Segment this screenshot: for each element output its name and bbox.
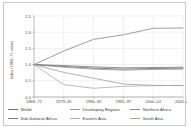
- y-tick-label: 2.5: [25, 14, 31, 19]
- legend-label: World: [21, 105, 32, 114]
- y-tick-label: 0.5: [25, 78, 31, 83]
- legend-color-swatch: [70, 109, 80, 110]
- legend-label: South Asia: [143, 114, 163, 123]
- legend-item[interactable]: Northern Africa: [130, 105, 183, 114]
- plot-area: 0.00.51.01.52.02.5 1969–711979–811990–92…: [4, 3, 187, 103]
- chart-legend: WorldDeveloping RegionsNorthern AfricaSu…: [4, 103, 187, 125]
- y-tick-label: 1.5: [25, 46, 31, 51]
- legend-row: Sub-Saharan AfricaEastern AsiaSouth Asia: [8, 114, 183, 123]
- series-lines: [34, 28, 183, 88]
- legend-color-swatch: [130, 109, 140, 110]
- series-line: [34, 28, 183, 65]
- figure-panel: 0.00.51.01.52.02.5 1969–711979–811990–92…: [3, 2, 186, 126]
- legend-color-swatch: [70, 118, 80, 119]
- legend-item[interactable]: Sub-Saharan Africa: [8, 114, 70, 123]
- legend-label: Developing Regions: [83, 105, 120, 114]
- line-chart: 0.00.51.01.52.02.5 1969–711979–811990–92…: [4, 3, 187, 103]
- legend-color-swatch: [8, 118, 18, 119]
- legend-label: Sub-Saharan Africa: [21, 114, 57, 123]
- y-axis-ticks: 0.00.51.01.52.02.5: [25, 14, 34, 100]
- y-tick-label: 2.0: [25, 30, 31, 35]
- legend-item[interactable]: Developing Regions: [70, 105, 130, 114]
- legend-color-swatch: [130, 118, 140, 119]
- legend-color-swatch: [8, 109, 18, 110]
- y-axis-title: Index (1969–71 value): [9, 40, 14, 79]
- legend-label: Northern Africa: [143, 105, 171, 114]
- legend-item[interactable]: Eastern Asia: [70, 114, 130, 123]
- legend-row: WorldDeveloping RegionsNorthern Africa: [8, 105, 183, 114]
- legend-item[interactable]: South Asia: [130, 114, 183, 123]
- legend-item[interactable]: World: [8, 105, 70, 114]
- y-tick-label: 1.0: [25, 62, 31, 67]
- legend-label: Eastern Asia: [83, 114, 107, 123]
